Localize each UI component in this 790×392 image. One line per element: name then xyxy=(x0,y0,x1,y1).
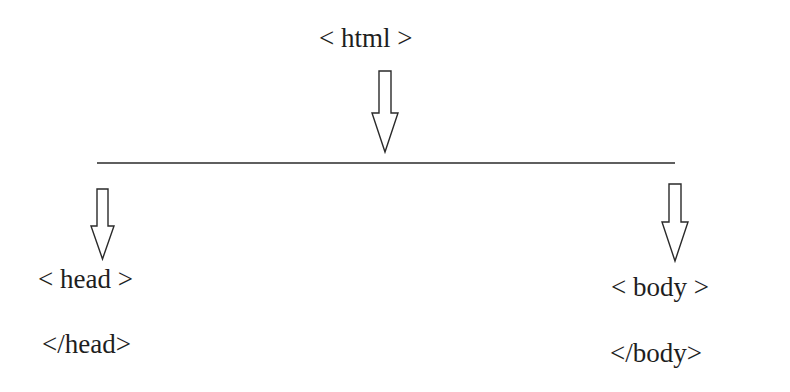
body-close-tag: </body> xyxy=(610,340,702,367)
root-down-arrow-icon xyxy=(372,71,398,152)
root-node-html: < html > xyxy=(319,25,412,52)
body-down-arrow-icon xyxy=(662,184,688,261)
head-close-tag: </head> xyxy=(42,331,131,358)
body-open-tag: < body > xyxy=(611,274,709,301)
head-down-arrow-icon xyxy=(91,189,114,259)
head-open-tag: < head > xyxy=(38,266,133,293)
